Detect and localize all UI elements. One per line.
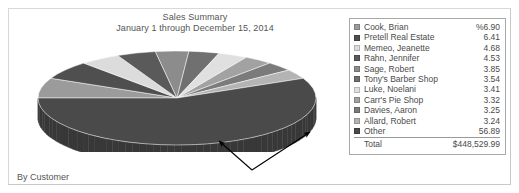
callout-arrows — [200, 118, 340, 180]
legend-row: Allard, Robert3.24 — [354, 116, 500, 126]
pie-slice-side — [78, 131, 83, 152]
legend-row: Rahn, Jennifer4.53 — [354, 53, 500, 63]
pie-slice-side — [189, 145, 196, 152]
pie-slice-side — [45, 112, 47, 134]
legend-item-label: Carr's Pie Shop — [364, 95, 479, 105]
pie-slice-side — [119, 141, 126, 152]
legend-item-label: Sage, Robert — [364, 64, 479, 74]
pie-slice-side — [126, 142, 133, 152]
pie-slice-side — [160, 145, 167, 152]
legend-color-swatch — [354, 45, 360, 51]
legend-item-value: 3.85 — [479, 64, 500, 74]
legend-row: Tony's Barber Shop3.54 — [354, 74, 500, 84]
legend-item-value: 6.41 — [479, 32, 500, 42]
pie-slice-side — [41, 108, 43, 130]
pie-slice-side — [132, 142, 139, 152]
pie-slice-side — [83, 133, 88, 152]
footer-group-label: By Customer — [17, 172, 69, 182]
legend-color-swatch — [354, 35, 360, 41]
pie-slice-side — [43, 110, 45, 132]
legend-color-swatch — [354, 118, 360, 124]
legend-item-label: Luke, Noelani — [364, 84, 479, 94]
legend-item-value: %6.90 — [472, 22, 500, 32]
legend-item-label: Davies, Aaron — [364, 105, 479, 115]
pie-slice-side — [53, 119, 56, 141]
legend-color-swatch — [354, 107, 360, 113]
pie-slice-side — [73, 129, 78, 151]
page-title: Sales Summary — [60, 12, 330, 23]
pie-slice-side — [100, 137, 106, 152]
callout-arrow-right — [252, 132, 310, 170]
legend-rows: Cook, Brian%6.90Pretell Real Estate6.41M… — [354, 22, 500, 136]
pie-slice-side — [182, 145, 189, 152]
legend-color-swatch — [354, 128, 360, 134]
pie-slice-side — [56, 121, 60, 143]
legend-item-label: Memeo, Jeanette — [364, 43, 479, 53]
legend-row: Pretell Real Estate6.41 — [354, 32, 500, 42]
legend-color-swatch — [354, 24, 360, 30]
legend-row: Memeo, Jeanette4.68 — [354, 43, 500, 53]
page-subtitle: January 1 through December 15, 2014 — [60, 23, 330, 34]
legend-item-value: 56.89 — [475, 126, 500, 136]
legend-color-swatch — [354, 76, 360, 82]
legend-item-value: 4.68 — [479, 43, 500, 53]
report-canvas: Sales Summary January 1 through December… — [0, 0, 519, 193]
pie-slice-side — [60, 123, 64, 145]
pie-slice-side — [146, 144, 153, 152]
pie-slice-side — [175, 145, 182, 152]
pie-slice-side — [106, 138, 112, 152]
pie-slice-side — [94, 136, 100, 152]
legend-color-swatch — [354, 66, 360, 72]
callout-arrows-svg — [200, 118, 340, 180]
legend-item-label: Tony's Barber Shop — [364, 74, 479, 84]
legend-total-label: Total — [364, 139, 449, 151]
pie-slice-side — [68, 127, 73, 149]
legend-item-value: 4.53 — [479, 53, 500, 63]
legend-total-row: Total $448,529.99 — [354, 137, 500, 151]
legend-item-label: Rahn, Jennifer — [364, 53, 479, 63]
pie-slice-side — [47, 115, 50, 137]
legend-row: Davies, Aaron3.25 — [354, 105, 500, 115]
legend-row: Carr's Pie Shop3.32 — [354, 95, 500, 105]
pie-slice-side — [88, 134, 94, 152]
pie-slice-side — [153, 144, 160, 152]
pie-slice-side — [50, 117, 53, 139]
legend-item-label: Other — [364, 126, 475, 136]
legend-item-value: 3.25 — [479, 105, 500, 115]
pie-slice-side — [64, 125, 68, 147]
legend-row: Sage, Robert3.85 — [354, 64, 500, 74]
callout-arrow-left — [219, 141, 252, 170]
legend-item-value: 3.54 — [479, 74, 500, 84]
legend-row: Luke, Noelani3.41 — [354, 84, 500, 94]
pie-slice-side — [112, 140, 118, 152]
legend-row: Other56.89 — [354, 126, 500, 136]
pie-slice-side — [167, 145, 174, 152]
legend-item-value: 3.41 — [479, 84, 500, 94]
legend-color-swatch — [354, 55, 360, 61]
legend-item-value: 3.32 — [479, 95, 500, 105]
legend-item-label: Cook, Brian — [364, 22, 472, 32]
legend-item-label: Allard, Robert — [364, 116, 479, 126]
legend-total-value: $448,529.99 — [449, 139, 500, 151]
legend-color-swatch — [354, 97, 360, 103]
legend-panel: Cook, Brian%6.90Pretell Real Estate6.41M… — [349, 18, 506, 155]
legend-color-swatch — [354, 87, 360, 93]
chart-title-block: Sales Summary January 1 through December… — [60, 12, 330, 35]
pie-slice-side — [139, 143, 146, 152]
legend-row: Cook, Brian%6.90 — [354, 22, 500, 32]
legend-item-value: 3.24 — [479, 116, 500, 126]
legend-item-label: Pretell Real Estate — [364, 32, 479, 42]
